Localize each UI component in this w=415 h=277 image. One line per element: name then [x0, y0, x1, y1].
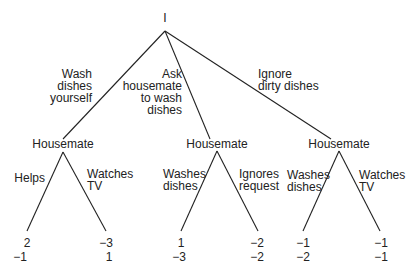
move-label-wash-yourself: Wash dishes yourself — [40, 68, 92, 104]
payoff-me: 1 — [169, 236, 193, 250]
payoff-housemate: 1 — [97, 250, 121, 264]
action-label-helps: Helps — [5, 172, 45, 184]
housemate-node-label: Housemate — [23, 138, 103, 150]
action-label-ignores-request: Ignores request — [239, 168, 289, 192]
move-label-ignore-dishes: Ignore dirty dishes — [258, 68, 348, 92]
payoff-me: −1 — [369, 236, 393, 250]
edge-helps — [27, 152, 63, 231]
game-tree-diagram: I Wash dishes yourself Ask housemate to … — [0, 0, 415, 277]
payoff-housemate: −1 — [369, 250, 393, 264]
housemate-node-label: Housemate — [177, 138, 257, 150]
housemate-node-label: Housemate — [299, 138, 379, 150]
action-label-washes-dishes: Washes dishes — [163, 168, 213, 192]
payoff-housemate: −2 — [245, 250, 269, 264]
action-label-washes-dishes: Washes dishes — [287, 169, 337, 193]
root-node-label: I — [155, 12, 175, 24]
payoff-housemate: −3 — [167, 250, 191, 264]
payoff-me: −3 — [94, 236, 118, 250]
action-label-watches-tv: Watches TV — [359, 169, 409, 193]
payoff-me: −1 — [291, 236, 315, 250]
payoff-housemate: −1 — [8, 250, 32, 264]
action-label-watches-tv: Watches TV — [87, 168, 137, 192]
move-label-ask-housemate: Ask housemate to wash dishes — [120, 68, 182, 116]
payoff-me: −2 — [245, 236, 269, 250]
payoff-housemate: −2 — [291, 250, 315, 264]
payoff-me: 2 — [15, 236, 39, 250]
